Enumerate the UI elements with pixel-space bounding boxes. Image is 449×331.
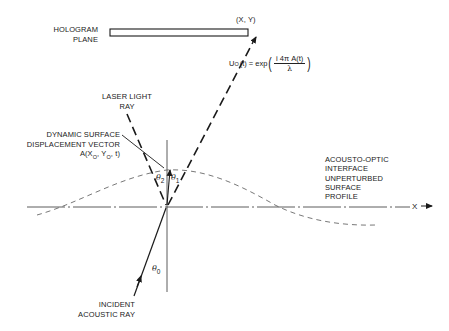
right-paren: ) [307, 55, 310, 72]
x-axis-label: X [412, 202, 417, 212]
displacement-vector-arrow [167, 170, 170, 205]
laser-light-ray-label: LASER LIGHT RAY [94, 92, 160, 111]
theta1-label: θ1 [171, 173, 179, 184]
point-xy-label: (X, Y) [236, 15, 256, 25]
displacement-vector-label: DYNAMIC SURFACE DISPLACEMENT VECTOR A(XO… [8, 130, 120, 162]
reflected-ray-arrowhead [252, 37, 256, 44]
acousto-optic-holography-diagram: HOLOGRAM PLANE (X, Y) LASER LIGHT RAY DY… [0, 0, 449, 331]
displacement-label-leader [122, 135, 164, 168]
phase-formula: UO (t) = exp ( i 4π A(t) λ ) [229, 54, 312, 73]
laser-light-ray [127, 114, 166, 205]
theta0-label: θ0 [152, 264, 160, 275]
formula-fraction: i 4π A(t) λ [274, 54, 305, 73]
hologram-plane-label: HOLOGRAM PLANE [40, 25, 98, 44]
incident-acoustic-ray-label: INCIDENT ACOUSTIC RAY [60, 300, 135, 319]
left-paren: ( [269, 55, 272, 72]
interface-profile-label: ACOUSTO-OPTIC INTERFACE UNPERTURBED SURF… [325, 155, 389, 201]
incident-ray-arrowhead [137, 276, 141, 287]
theta2-label: θ2 [156, 173, 164, 184]
hologram-plane [110, 29, 248, 36]
